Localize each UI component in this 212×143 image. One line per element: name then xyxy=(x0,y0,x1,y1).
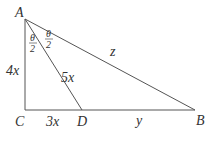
segment-label-ad: 5x xyxy=(61,70,75,85)
angle-label-right: θ 2 xyxy=(45,28,53,50)
vertex-label-c: C xyxy=(15,114,25,129)
triangle-diagram: A C D B 4x 3x y 5x z θ 2 θ 2 xyxy=(0,0,212,143)
vertex-label-d: D xyxy=(76,114,87,129)
vertex-label-a: A xyxy=(14,5,24,20)
segment-label-ab: z xyxy=(109,44,116,59)
fraction-denominator: 2 xyxy=(46,39,51,50)
theta-symbol: θ xyxy=(30,32,35,43)
segment-label-cd: 3x xyxy=(45,114,60,129)
angle-label-left: θ 2 xyxy=(29,32,37,54)
theta-symbol: θ xyxy=(46,28,51,39)
segment-label-ac: 4x xyxy=(6,63,20,78)
fraction-denominator: 2 xyxy=(30,43,35,54)
segment-label-db: y xyxy=(134,113,143,128)
vertex-label-b: B xyxy=(196,113,205,128)
